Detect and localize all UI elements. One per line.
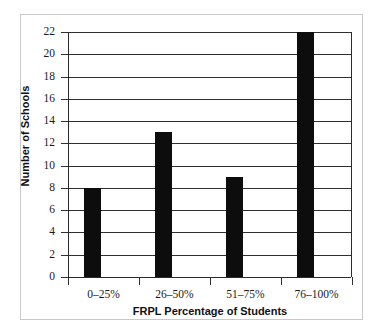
- bar: [155, 132, 172, 277]
- y-axis-tick-mark: [61, 210, 68, 211]
- y-axis-tick-label: 20: [29, 48, 55, 60]
- y-axis-tick-label: 16: [29, 93, 55, 105]
- bar: [226, 177, 243, 277]
- y-axis-tick-labels: 0246810121416182022: [22, 0, 55, 333]
- x-axis-tick-label: 26–50%: [139, 288, 210, 300]
- y-axis-tick-label: 4: [29, 226, 55, 238]
- y-axis-tick-label: 2: [29, 249, 55, 261]
- y-axis-tick-label: 22: [29, 26, 55, 38]
- y-axis-tick-label: 6: [29, 204, 55, 216]
- y-axis-tick-mark: [61, 188, 68, 189]
- x-axis-title: FRPL Percentage of Students: [68, 305, 352, 317]
- x-axis-tick-mark: [68, 277, 69, 285]
- x-axis-tick-mark: [210, 277, 211, 285]
- x-axis-tick-mark: [281, 277, 282, 285]
- x-axis-tick-label: 76–100%: [281, 288, 352, 300]
- bar: [84, 188, 101, 277]
- y-axis-tick-mark: [61, 77, 68, 78]
- y-axis-tick-label: 14: [29, 115, 55, 127]
- y-axis-tick-mark: [61, 121, 68, 122]
- x-axis-tick-mark: [139, 277, 140, 285]
- y-axis-tick-mark: [61, 166, 68, 167]
- y-axis-tick-mark: [61, 277, 68, 278]
- x-axis-tick-label: 0–25%: [68, 288, 139, 300]
- y-axis-tick-label: 10: [29, 160, 55, 172]
- y-axis-tick-mark: [61, 143, 68, 144]
- bar-chart: Number of Schools 0246810121416182022 0–…: [0, 0, 379, 333]
- plot-area: [68, 32, 352, 277]
- bar: [297, 32, 314, 277]
- x-axis-tick-mark: [352, 277, 353, 285]
- y-axis-tick-label: 8: [29, 182, 55, 194]
- y-axis-tick-label: 0: [29, 271, 55, 283]
- y-axis-tick-label: 12: [29, 137, 55, 149]
- y-axis-tick-mark: [61, 32, 68, 33]
- x-axis-tick-label: 51–75%: [210, 288, 281, 300]
- y-axis-tick-mark: [61, 232, 68, 233]
- y-axis-tick-label: 18: [29, 71, 55, 83]
- y-axis-tick-mark: [61, 54, 68, 55]
- y-axis-tick-mark: [61, 99, 68, 100]
- y-axis-tick-mark: [61, 255, 68, 256]
